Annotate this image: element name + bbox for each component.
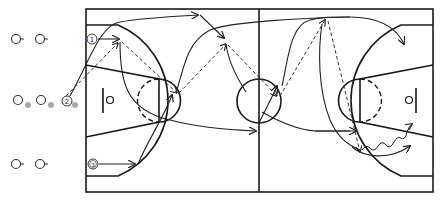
right-ft-circle-outer: [339, 79, 360, 122]
play-diagram: 1 2 3: [0, 0, 445, 206]
court: [86, 9, 433, 192]
right-key: [360, 65, 433, 137]
queue-player: [37, 96, 46, 105]
right-rim: [406, 97, 413, 104]
queue-player: [12, 35, 21, 44]
player-number: 1: [90, 36, 94, 44]
queue-player: [12, 160, 21, 169]
pass-arrow-wing-to-center: [228, 45, 277, 96]
left-three-point-line: [86, 25, 168, 176]
court-svg: 1 2 3: [0, 0, 445, 206]
player-number: 2: [65, 98, 69, 106]
left-rim: [107, 97, 114, 104]
cut-arrow-baseline-curl: [352, 146, 410, 156]
player-number: 3: [91, 162, 95, 168]
right-ft-circle-inner: [360, 79, 381, 122]
queue-player: [36, 160, 45, 169]
pass-arrow-top-to-block: [328, 21, 360, 152]
player-3: 3: [88, 159, 98, 169]
cut-arrow-player-3-up: [138, 95, 172, 164]
ball-icon: [48, 102, 54, 108]
cut-line-right-wing-up: [282, 17, 350, 86]
left-half-court: [86, 25, 180, 176]
player-1: 1: [87, 34, 97, 44]
queue-player: [14, 96, 23, 105]
pass-arrow-center-to-top: [280, 20, 325, 96]
player-2: 2: [62, 96, 72, 106]
queue-bottom: [12, 160, 49, 169]
ball-icon: [25, 102, 31, 108]
right-half-court: [339, 25, 433, 176]
ball-icon: [72, 102, 78, 108]
pass-arrow-elbow-to-wing: [179, 44, 226, 93]
queue-player: [36, 35, 45, 44]
queue-top: [12, 35, 49, 44]
